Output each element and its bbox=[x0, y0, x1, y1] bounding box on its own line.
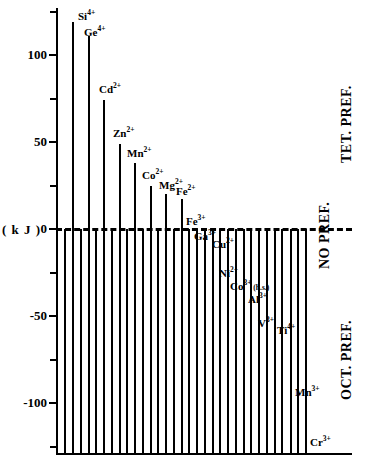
y-tick-label: 0 bbox=[41, 222, 48, 235]
y-axis-line bbox=[56, 8, 58, 455]
region-label-oct: OCT. PREF. bbox=[339, 320, 355, 400]
y-tick-major bbox=[49, 54, 58, 56]
bar-ge-4plus bbox=[88, 36, 90, 453]
y-tick-label: -100 bbox=[23, 396, 47, 409]
y-tick-minor bbox=[50, 359, 57, 361]
bar-label-ge-4plus: Ge4+ bbox=[84, 27, 105, 38]
bar-stem bbox=[126, 229, 128, 453]
y-tick-major bbox=[49, 228, 58, 230]
y-tick-minor bbox=[50, 11, 57, 13]
bar-stem bbox=[111, 229, 113, 453]
bar-stem bbox=[95, 229, 97, 453]
bar-mg-2plus bbox=[165, 194, 167, 453]
bar-stem bbox=[142, 229, 144, 453]
bar-label-si-4plus: Si4+ bbox=[78, 11, 95, 22]
y-tick-minor bbox=[50, 98, 57, 100]
bar-stem bbox=[157, 229, 159, 453]
bar-mn-2plus bbox=[134, 163, 136, 453]
bar-stem bbox=[235, 229, 237, 453]
y-tick-label: 100 bbox=[28, 48, 48, 61]
bar-stem bbox=[297, 229, 299, 453]
bar-co-2plus bbox=[150, 186, 152, 454]
x-axis-line bbox=[56, 453, 352, 455]
y-tick-major bbox=[49, 402, 58, 404]
y-tick-label: -50 bbox=[30, 309, 47, 322]
bar-si-4plus bbox=[72, 22, 74, 453]
bar-stem bbox=[204, 229, 206, 453]
bar-stem bbox=[281, 229, 283, 453]
bar-label-cd-2plus: Cd2+ bbox=[99, 84, 121, 95]
plot-area: ( k J ) 100500-50-100 Si4+Ge4+Cd2+Zn2+Mn… bbox=[0, 0, 365, 469]
y-tick-label: 50 bbox=[34, 135, 47, 148]
bar-stem bbox=[188, 229, 190, 453]
y-axis-unit-label: ( k J ) bbox=[2, 222, 41, 238]
bar-stem bbox=[266, 229, 268, 453]
bar-label-ti-4plus: Ti4+ bbox=[277, 325, 295, 336]
bar-stem bbox=[250, 229, 252, 453]
bar-label-fe-2plus: Fe2+ bbox=[176, 186, 196, 197]
bar-stem bbox=[64, 229, 66, 453]
chart-root: ( k J ) 100500-50-100 Si4+Ge4+Cd2+Zn2+Mn… bbox=[0, 0, 365, 469]
bar-label-mn-2plus: Mn2+ bbox=[127, 148, 152, 159]
bar-label-v-3plus: V3+ bbox=[258, 318, 274, 329]
y-tick-minor bbox=[50, 185, 57, 187]
bar-label-mn-3plus: Mn3+ bbox=[295, 387, 320, 398]
y-tick-minor bbox=[50, 272, 57, 274]
bar-ga-3plus bbox=[196, 229, 198, 453]
bar-label-al-3plus: Al3+ bbox=[248, 294, 267, 305]
bar-label-fe-3plus: Fe3+ bbox=[186, 216, 206, 227]
region-label-tet: TET. PREF. bbox=[339, 85, 355, 163]
bar-stem bbox=[80, 229, 82, 453]
bar-cu-2plus bbox=[212, 229, 214, 453]
bar-fe-3plus bbox=[181, 229, 183, 453]
bar-negative-segment bbox=[305, 229, 307, 452]
bar-negative-segment bbox=[290, 229, 292, 401]
bar-zn-2plus bbox=[119, 144, 121, 453]
bar-stem bbox=[173, 229, 175, 453]
bar-label-co-3plus: Co3+ (h.s.) bbox=[230, 281, 269, 292]
y-tick-major bbox=[49, 141, 58, 143]
bar-negative-segment bbox=[274, 229, 276, 330]
y-tick-minor bbox=[50, 446, 57, 448]
bar-label-zn-2plus: Zn2+ bbox=[113, 128, 135, 139]
bar-stem bbox=[219, 229, 221, 453]
y-tick-major bbox=[49, 315, 58, 317]
bar-label-cr-3plus: Cr3+ bbox=[310, 437, 331, 448]
bar-label-ni-2plus: Ni2+ bbox=[219, 268, 238, 279]
bar-label-cu-2plus: Cu2+ bbox=[212, 239, 234, 250]
region-label-no: NO PREF. bbox=[317, 202, 333, 269]
bar-cd-2plus bbox=[103, 100, 105, 453]
